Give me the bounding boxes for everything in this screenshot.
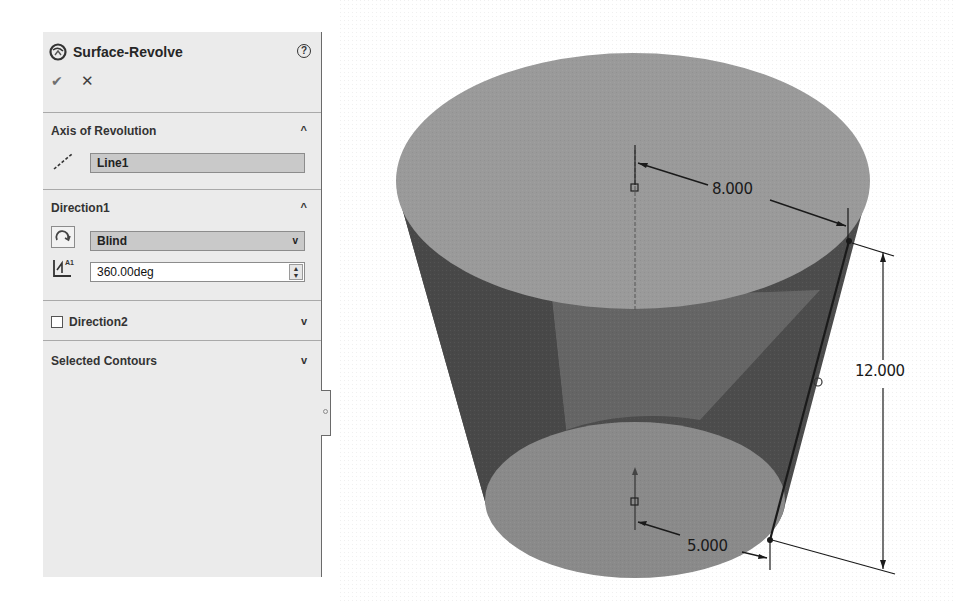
section-title-axis-of-revolution[interactable]: Axis of Revolution: [51, 124, 156, 138]
divider: [43, 300, 321, 301]
surface-revolve-icon: [49, 43, 67, 61]
end-condition-select[interactable]: Blind v: [90, 231, 305, 251]
axis-line-icon: [51, 150, 75, 172]
help-icon[interactable]: ?: [297, 44, 311, 58]
chevron-up-icon[interactable]: ^: [301, 124, 307, 136]
angle-spinner[interactable]: ▲▼: [289, 264, 303, 280]
dimension-top-radius[interactable]: 8.000: [712, 180, 752, 198]
ok-button[interactable]: ✔: [51, 73, 63, 89]
angle-value: 360.00deg: [97, 265, 154, 279]
svg-text:A1: A1: [65, 259, 74, 266]
cone-model[interactable]: [340, 0, 955, 602]
cancel-button[interactable]: ✕: [81, 72, 94, 90]
section-title-direction2[interactable]: Direction2: [69, 315, 128, 329]
graphics-area[interactable]: 8.000 12.000 5.000: [340, 0, 955, 602]
feature-header: Surface-Revolve ?: [49, 43, 313, 63]
section-title-selected-contours[interactable]: Selected Contours: [51, 354, 157, 368]
end-condition-value: Blind: [97, 234, 127, 248]
angle-input[interactable]: 360.00deg ▲▼: [90, 262, 305, 282]
dimension-bottom-radius[interactable]: 5.000: [687, 537, 727, 555]
reverse-direction-icon[interactable]: [51, 226, 75, 248]
direction2-checkbox[interactable]: [51, 316, 63, 328]
divider: [43, 189, 321, 190]
axis-selection-field[interactable]: Line1: [90, 153, 305, 173]
chevron-down-icon[interactable]: v: [301, 354, 307, 366]
panel-collapse-handle[interactable]: [321, 390, 331, 436]
angle-icon: A1: [51, 257, 75, 279]
section-title-direction1[interactable]: Direction1: [51, 201, 110, 215]
axis-value: Line1: [97, 156, 128, 170]
chevron-down-icon[interactable]: v: [301, 315, 307, 327]
divider: [43, 112, 321, 113]
dimension-height[interactable]: 12.000: [855, 362, 905, 380]
chevron-up-icon[interactable]: ^: [301, 201, 307, 213]
property-manager-panel: Surface-Revolve ? ✔ ✕ Axis of Revolution…: [43, 32, 322, 577]
feature-title: Surface-Revolve: [73, 44, 183, 60]
chevron-down-icon: v: [292, 232, 298, 250]
divider: [43, 340, 321, 341]
handle-dot-icon: [323, 409, 328, 414]
